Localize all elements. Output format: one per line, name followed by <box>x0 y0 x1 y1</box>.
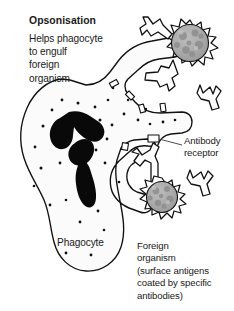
cytoplasm-granule-icon <box>111 124 114 127</box>
cytoplasm-granule-icon <box>104 162 107 165</box>
cytoplasm-granule-icon <box>162 121 165 124</box>
cytoplasm-granule-icon <box>65 252 68 255</box>
cytoplasm-granule-icon <box>118 181 121 184</box>
cytoplasm-granule-icon <box>137 119 140 122</box>
cytoplasm-granule-icon <box>107 99 110 102</box>
opsonisation-diagram <box>0 0 234 311</box>
cytoplasm-granule-icon <box>123 113 126 116</box>
cytoplasm-granule-icon <box>95 149 98 152</box>
cytoplasm-granule-icon <box>94 106 97 109</box>
cytoplasm-granule-icon <box>99 119 102 122</box>
cytoplasm-granule-icon <box>33 185 36 188</box>
cytoplasm-granule-icon <box>51 109 54 112</box>
cytoplasm-granule-icon <box>79 221 82 224</box>
membrane-receptor-icon-labelled <box>148 135 159 142</box>
cytoplasm-granule-icon <box>34 146 37 149</box>
cytoplasm-granule-icon <box>97 210 100 213</box>
cytoplasm-granule-icon <box>127 99 129 101</box>
cytoplasm-granule-icon <box>59 162 62 165</box>
cytoplasm-granule-icon <box>77 102 80 105</box>
cytoplasm-granule-icon <box>106 138 109 141</box>
cytoplasm-granule-icon <box>85 192 88 195</box>
cytoplasm-granule-icon <box>40 167 43 170</box>
cytoplasm-granule-icon <box>42 125 45 128</box>
cytoplasm-granule-icon <box>103 229 106 232</box>
cytoplasm-granule-icon <box>65 199 68 202</box>
cytoplasm-granule-icon <box>90 254 93 257</box>
membrane-receptor-icon <box>160 103 166 112</box>
cytoplasm-granule-icon <box>174 119 177 122</box>
cytoplasm-granule-icon <box>49 204 52 207</box>
cytoplasm-granule-icon <box>61 99 64 102</box>
membrane-receptor-icon <box>122 143 129 151</box>
cytoplasm-granule-icon <box>149 123 152 126</box>
opsonisation-figure: Opsonisation Helps phagocyte to engulf f… <box>0 0 234 311</box>
